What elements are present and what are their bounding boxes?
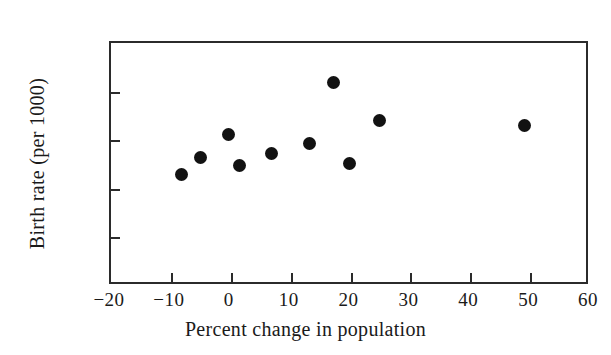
y-axis-tick (111, 237, 120, 239)
x-axis-tick-label: 40 (438, 290, 498, 309)
x-axis-tick (351, 273, 353, 282)
x-axis-tick (470, 273, 472, 282)
x-axis-title: Percent change in population (0, 318, 611, 341)
x-axis-tick-label: 20 (319, 290, 379, 309)
data-point (222, 128, 235, 141)
data-point (265, 147, 278, 160)
y-axis-tick (111, 92, 120, 94)
x-axis-tick-label: −10 (139, 290, 199, 309)
x-axis-tick (530, 273, 532, 282)
x-axis-tick-label: 10 (259, 290, 319, 309)
data-point (303, 137, 316, 150)
data-point (343, 157, 356, 170)
x-axis-tick (171, 273, 173, 282)
y-axis-title: Birth rate (per 1000) (26, 42, 52, 285)
x-axis-tick (231, 273, 233, 282)
data-point (518, 119, 531, 132)
x-axis-tick-label: −20 (79, 290, 139, 309)
x-axis-tick (410, 273, 412, 282)
scatter-plot-figure: 0510152025 −20−100102030405060 Birth rat… (0, 0, 611, 355)
x-axis-tick (291, 273, 293, 282)
data-point (327, 76, 340, 89)
plot-frame (109, 41, 588, 284)
x-axis-tick-label: 0 (199, 290, 259, 309)
data-point (175, 168, 188, 181)
plot-area (111, 43, 586, 282)
y-axis-tick (111, 189, 120, 191)
x-axis-tick-label: 60 (558, 290, 611, 309)
y-axis-tick (111, 140, 120, 142)
data-point (233, 159, 246, 172)
x-axis-tick-label: 50 (498, 290, 558, 309)
data-point (194, 151, 207, 164)
x-axis-tick-label: 30 (378, 290, 438, 309)
data-point (373, 114, 386, 127)
